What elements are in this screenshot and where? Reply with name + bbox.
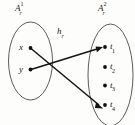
element-label-t1: t1 — [110, 42, 116, 53]
set-mapping-diagram: A1r A2r hr x y t1 t2 t3 t4 — [0, 0, 135, 125]
codomain-set-label-superscript: 2 — [104, 1, 107, 7]
domain-set-label-superscript: 1 — [21, 1, 24, 7]
element-dot-t3 — [103, 84, 107, 88]
element-label-t3-subscript: 3 — [112, 86, 115, 92]
element-dot-t1 — [103, 45, 107, 49]
domain-set-label-subscript: r — [20, 10, 22, 16]
element-label-y-base: y — [19, 64, 23, 74]
element-label-y: y — [19, 65, 23, 74]
element-dot-y — [29, 68, 33, 72]
domain-set-label: A1r — [15, 2, 26, 15]
element-dot-t2 — [103, 65, 107, 69]
element-label-t3: t3 — [110, 81, 116, 92]
element-label-x-base: x — [19, 42, 23, 52]
element-label-t4: t4 — [110, 100, 116, 111]
element-dot-t4 — [103, 103, 107, 107]
element-label-x: x — [19, 43, 23, 52]
codomain-set-label-subscript: r — [103, 10, 105, 16]
element-label-t2: t2 — [110, 62, 116, 73]
mapping-label: hr — [57, 27, 64, 38]
element-label-t4-subscript: 4 — [112, 106, 115, 112]
mapping-label-base: h — [57, 26, 62, 36]
codomain-set-label: A2r — [98, 2, 109, 15]
element-label-t2-subscript: 2 — [112, 68, 115, 74]
mapping-label-subscript: r — [62, 33, 64, 39]
element-dot-x — [29, 46, 33, 50]
element-label-t1-subscript: 1 — [112, 48, 115, 54]
